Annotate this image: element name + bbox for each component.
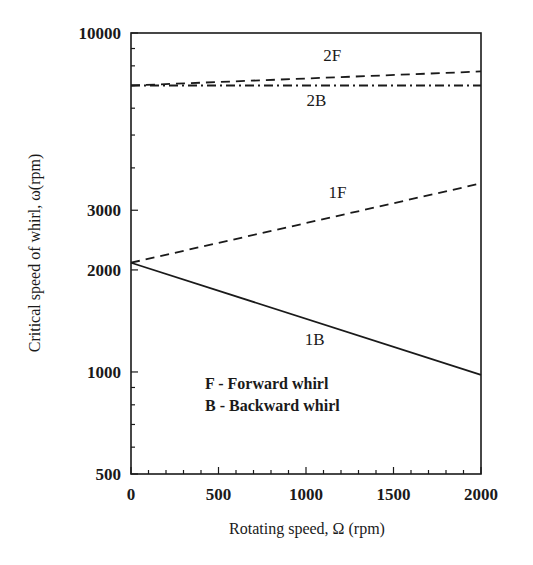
chart: 50010002000300010000 0500100015002000 2F… (0, 0, 533, 565)
series-1f (131, 183, 481, 262)
x-tick-label: 1500 (377, 485, 411, 504)
series-1b (131, 263, 481, 375)
y-tick-label: 2000 (87, 261, 121, 280)
y-tick-label: 500 (96, 465, 122, 484)
curve-label-2b: 2B (307, 91, 327, 110)
series-2f (131, 71, 481, 85)
legend-entry-forward: F - Forward whirl (205, 375, 329, 392)
y-tick-label: 10000 (79, 24, 122, 43)
curve-labels: 2F2B1F1B (305, 46, 347, 349)
curve-label-1f: 1F (329, 183, 347, 202)
y-tick-label: 1000 (87, 363, 121, 382)
y-tick-labels: 50010002000300010000 (79, 24, 122, 484)
x-tick-label: 500 (206, 485, 232, 504)
x-tick-label: 2000 (464, 485, 498, 504)
legend-entry-backward: B - Backward whirl (205, 397, 340, 414)
x-axis-title: Rotating speed, Ω (rpm) (229, 520, 385, 538)
x-tick-labels: 0500100015002000 (127, 485, 498, 504)
curve-label-2f: 2F (323, 46, 341, 65)
x-tick-label: 0 (127, 485, 136, 504)
curve-label-1b: 1B (305, 330, 325, 349)
y-axis-title: Critical speed of whirl, ω(rpm) (26, 154, 44, 352)
x-tick-label: 1000 (289, 485, 323, 504)
legend: F - Forward whirl B - Backward whirl (205, 375, 340, 414)
y-tick-label: 3000 (87, 201, 121, 220)
